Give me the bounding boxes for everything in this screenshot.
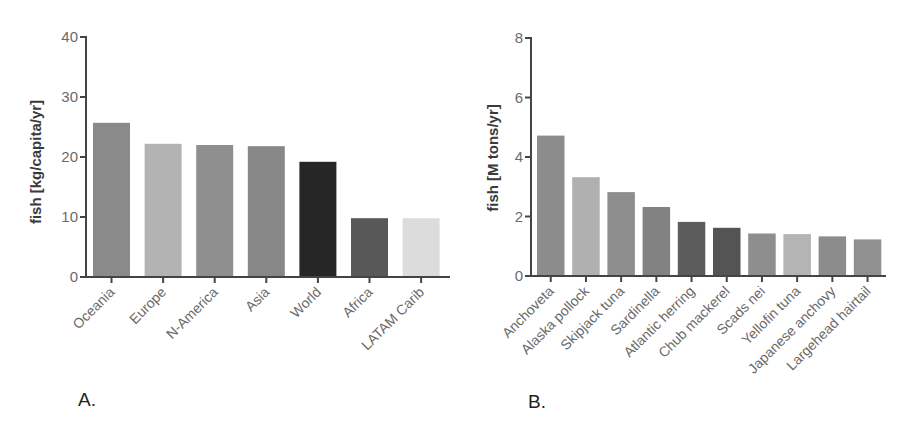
y-axis-title: fish [M tons/yr] (484, 104, 501, 212)
y-tick-label: 40 (61, 28, 78, 45)
x-category-label: World (287, 284, 324, 321)
figure: 010203040OceaniaEuropeN-AmericaAsiaWorld… (0, 0, 920, 426)
bar-japanese-anchovy (819, 236, 847, 276)
bar-largehead-hairtail (854, 239, 882, 276)
bar-scads-nei (748, 234, 776, 277)
y-tick-label: 20 (61, 148, 78, 165)
x-category-label: Asia (242, 284, 273, 315)
bar-skipjack-tuna (607, 192, 635, 276)
bar-n-america (196, 145, 233, 277)
bar-alaska-pollock (572, 177, 600, 276)
chart-panel-a: 010203040OceaniaEuropeN-AmericaAsiaWorld… (27, 28, 450, 410)
y-tick-label: 0 (515, 267, 523, 284)
y-axis-title: fish [kg/capita/yr] (27, 100, 44, 224)
y-tick-label: 8 (515, 29, 523, 46)
bar-atlantic-herring (678, 222, 706, 276)
x-category-label: N-America (163, 284, 221, 342)
bar-sardinella (643, 207, 671, 276)
y-tick-label: 30 (61, 88, 78, 105)
bar-africa (351, 218, 388, 277)
bar-oceania (93, 123, 130, 277)
bar-latam-carib (403, 218, 440, 277)
bar-yellofin-tuna (783, 234, 811, 276)
chart-panel-b: 02468AnchovetaAlaska pollockSkipjack tun… (484, 29, 886, 412)
y-tick-label: 6 (515, 89, 523, 106)
x-category-label: Africa (339, 284, 376, 321)
panel-label: A. (78, 389, 96, 410)
bar-anchoveta (537, 136, 565, 276)
bar-europe (145, 144, 182, 277)
x-category-label: Oceania (69, 284, 117, 332)
y-tick-label: 10 (61, 208, 78, 225)
y-tick-label: 4 (515, 148, 523, 165)
bar-world (299, 162, 336, 277)
bar-chub-mackerel (713, 228, 741, 276)
bar-asia (248, 146, 285, 277)
y-tick-label: 2 (515, 208, 523, 225)
y-tick-label: 0 (70, 268, 78, 285)
x-category-label: Europe (126, 284, 169, 327)
panel-label: B. (528, 391, 546, 412)
